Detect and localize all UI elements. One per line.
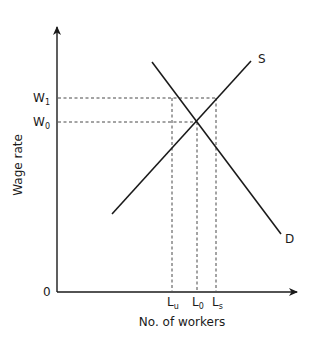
labour-market-chart: S D W1 W0 0 Lu L0 Ls Wage rate No. of wo… — [0, 0, 312, 340]
supply-label: S — [258, 52, 266, 66]
demand-label: D — [285, 232, 294, 246]
l0-label: L0 — [192, 295, 204, 311]
origin-label: 0 — [43, 285, 51, 299]
w0-label: W0 — [33, 115, 50, 131]
w1-label: W1 — [33, 91, 50, 107]
lu-label: Lu — [167, 295, 179, 311]
x-axis-title: No. of workers — [139, 315, 225, 329]
y-axis-title: Wage rate — [11, 134, 25, 196]
ls-label: Ls — [212, 295, 223, 311]
supply-curve — [112, 61, 251, 214]
